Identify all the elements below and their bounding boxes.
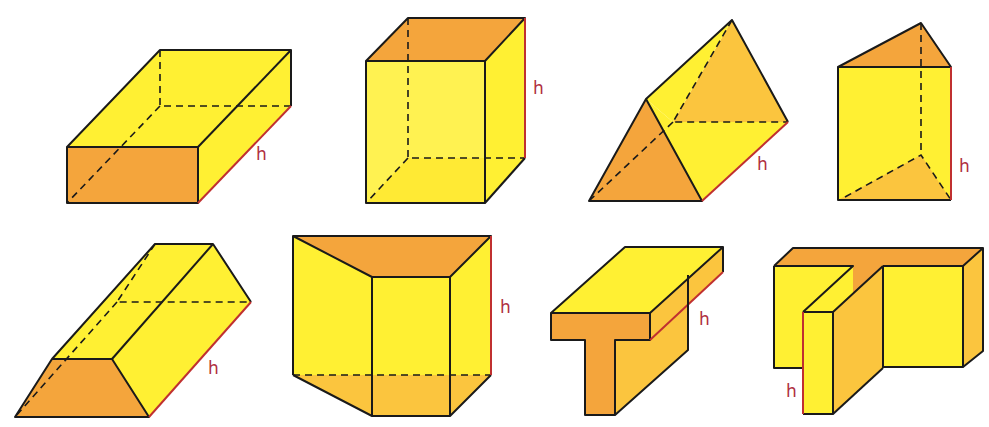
- shape-rectangular-prism-upright: h: [366, 18, 544, 203]
- height-label: h: [786, 381, 797, 401]
- shape-triangular-prism-lying: h: [589, 20, 788, 201]
- height-label: h: [699, 309, 710, 329]
- height-label: h: [500, 297, 511, 317]
- shape-t-prism-lying: h: [551, 247, 723, 415]
- shape-trapezoidal-prism-upright: h: [293, 236, 511, 416]
- shape-trapezoidal-prism-lying: h: [15, 244, 251, 417]
- height-label: h: [256, 144, 267, 164]
- height-label: h: [959, 156, 970, 176]
- height-label: h: [533, 78, 544, 98]
- shape-triangular-prism-upright: h: [838, 23, 970, 200]
- prisms-figure: h h h h: [0, 0, 989, 427]
- shape-rectangular-prism-lying: h: [67, 50, 291, 203]
- shape-t-prism-upright: h: [774, 248, 983, 414]
- height-label: h: [757, 154, 768, 174]
- height-label: h: [208, 358, 219, 378]
